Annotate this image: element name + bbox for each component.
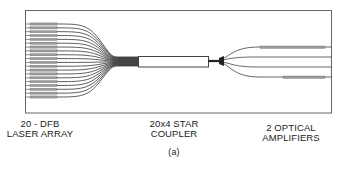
dfb-laser [30, 38, 57, 40]
output-waveguide-2 [221, 57, 332, 61]
star-coupler-label-line2: COUPLER [134, 129, 214, 139]
optical-amplifiers-label: 2 OPTICAL AMPLIFIERS [246, 123, 336, 143]
dfb-laser [30, 61, 57, 63]
dfb-laser [30, 42, 57, 44]
dfb-laser [30, 50, 57, 52]
figure-caption: (a) [154, 147, 194, 157]
optical-amplifier-1 [260, 46, 325, 48]
star-coupler-label: 20x4 STAR COUPLER [134, 119, 214, 139]
dfb-laser [30, 34, 57, 36]
dfb-laser [30, 77, 57, 79]
dfb-laser [30, 54, 57, 56]
dfb-laser [30, 84, 57, 86]
dfb-laser [30, 57, 57, 59]
output-waveguides [221, 47, 332, 77]
dfb-laser [30, 81, 57, 83]
laser-array-label: 20 - DFB LASER ARRAY [0, 119, 80, 139]
dfb-laser [30, 65, 57, 67]
optical-amplifiers-label-line2: AMPLIFIERS [246, 133, 336, 143]
optical-amplifier-2 [283, 76, 325, 78]
dfb-laser [30, 31, 57, 33]
input-waveguides [57, 24, 139, 97]
dfb-laser [30, 88, 57, 90]
star-coupler-diagram: 20 - DFB LASER ARRAY 20x4 STAR COUPLER 2… [0, 0, 348, 172]
dfb-laser [30, 73, 57, 75]
dfb-laser [30, 69, 57, 71]
dfb-laser [30, 23, 57, 25]
output-waveguide-3 [221, 62, 332, 68]
dfb-laser [30, 96, 57, 98]
dfb-laser [30, 92, 57, 94]
output-waveguide-1 [221, 47, 332, 60]
output-waveguide-4 [221, 62, 332, 77]
dfb-laser [30, 46, 57, 48]
laser-array [26, 23, 58, 98]
dfb-laser [30, 27, 57, 29]
output-taper [219, 56, 224, 66]
laser-array-label-line2: LASER ARRAY [0, 129, 80, 139]
star-coupler-box [139, 57, 209, 68]
